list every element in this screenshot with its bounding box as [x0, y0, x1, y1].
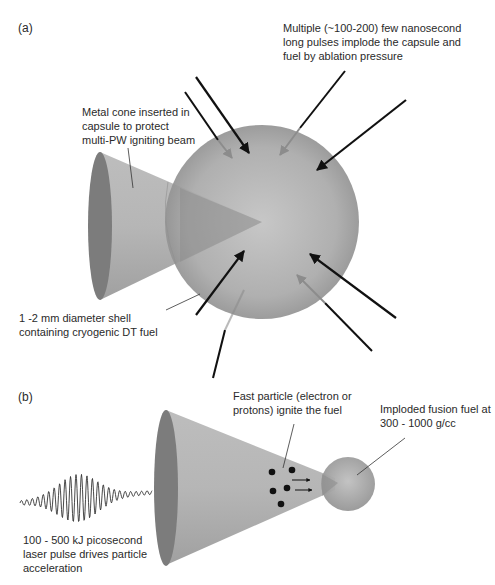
metal-cone-opening	[88, 152, 112, 300]
fuel-leader-line	[357, 438, 405, 475]
shell-leader-line	[166, 294, 200, 310]
particle-cone-opening	[154, 410, 178, 566]
pulses-annotation: Multiple (~100-200) few nanosecond long …	[283, 21, 461, 63]
panel-a-label: (a)	[18, 21, 33, 35]
particle-cone-body	[166, 410, 335, 565]
laser-annotation: 100 - 500 kJ picosecond laser pulse driv…	[23, 533, 147, 575]
shell-annotation: 1 -2 mm diameter shell containing cryoge…	[19, 311, 158, 339]
fuel-annotation: Imploded fusion fuel at 300 - 1000 g/cc	[380, 402, 491, 430]
particles-annotation: Fast particle (electron or protons) igni…	[233, 389, 352, 417]
laser-pulse-wave	[20, 474, 152, 521]
panel-b-label: (b)	[18, 390, 33, 404]
diagram-canvas	[0, 0, 495, 585]
cone-annotation: Metal cone inserted in capsule to protec…	[82, 105, 195, 147]
